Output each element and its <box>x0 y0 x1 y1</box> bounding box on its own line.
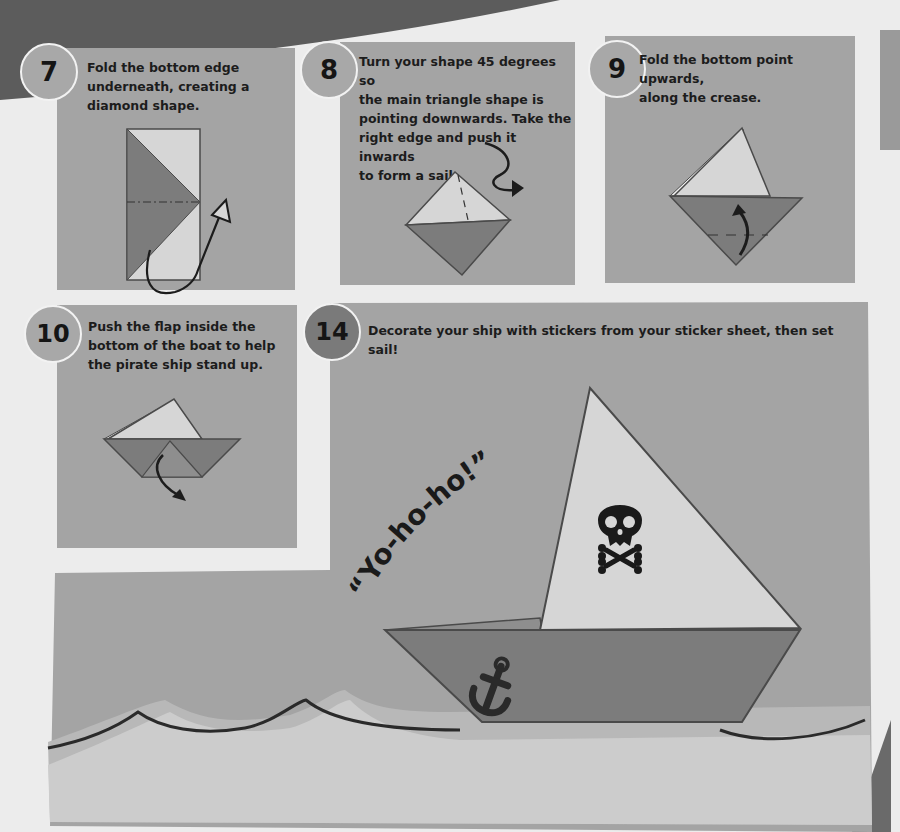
hull <box>385 630 800 722</box>
sail-back-flap <box>385 618 542 630</box>
yo-ho-ho-speech: “Yo-ho-ho!” <box>342 444 498 604</box>
main-sail <box>540 388 800 630</box>
